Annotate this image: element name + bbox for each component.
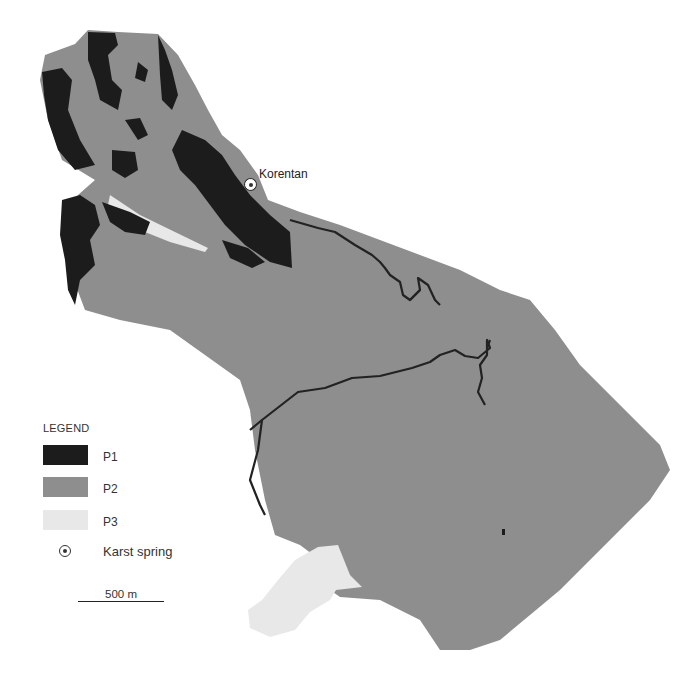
legend-title: LEGEND: [43, 422, 89, 434]
legend-label-p1: P1: [103, 450, 118, 464]
zone-p1-speck: [502, 529, 505, 535]
catchment-map: [0, 0, 690, 685]
legend-label-p3: P3: [103, 515, 118, 529]
scale-bar: [78, 601, 164, 602]
karst-spring-marker: [245, 179, 256, 190]
legend-swatch-p1: [43, 445, 88, 465]
karst-spring-icon: [59, 545, 71, 557]
legend-label-karst-spring: Karst spring: [103, 544, 172, 559]
scale-label: 500 m: [105, 588, 137, 600]
legend-swatch-p3: [43, 510, 88, 530]
place-label-korentan: Korentan: [259, 167, 308, 181]
legend-swatch-p2: [43, 477, 88, 497]
legend-label-p2: P2: [103, 482, 118, 496]
